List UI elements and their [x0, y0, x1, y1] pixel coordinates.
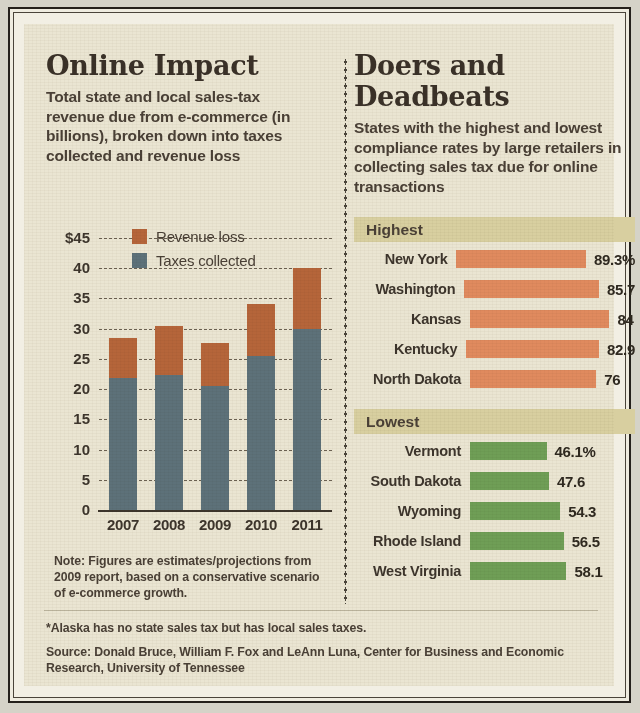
chart-bar [293, 268, 321, 510]
state-row-lowest: West Virginia58.1 [354, 558, 635, 584]
state-row-highest: Kentucky82.9 [354, 336, 635, 362]
chart-y-tick: 10 [46, 441, 90, 458]
legend-label-revenue-loss: Revenue loss [156, 228, 245, 245]
legend-label-taxes-collected: Taxes collected [156, 252, 256, 269]
legend-item-revenue-loss: Revenue loss [132, 228, 256, 245]
chart-bar-segment-revenue-loss [109, 338, 137, 378]
chart-y-tick: 35 [46, 289, 90, 306]
chart-bar-segment-revenue-loss [201, 343, 229, 387]
footer-divider [44, 610, 598, 611]
chart-legend: Revenue loss Taxes collected [132, 228, 256, 276]
state-name: South Dakota [354, 473, 470, 489]
state-row-highest: Washington85.7 [354, 276, 635, 302]
chart-x-tick: 2010 [238, 516, 284, 533]
state-name: Kansas [354, 311, 470, 327]
legend-swatch-revenue-loss [132, 229, 147, 244]
chart-bar [155, 326, 183, 510]
legend-swatch-taxes-collected [132, 253, 147, 268]
state-compliance-value: 46.1% [547, 443, 596, 460]
chart-bar-segment-taxes-collected [247, 356, 275, 510]
chart-x-tick: 2007 [100, 516, 146, 533]
state-compliance-value: 47.6 [549, 473, 585, 490]
state-compliance-value: 54.3 [560, 503, 596, 520]
section-band-highest-label: Highest [366, 221, 423, 239]
right-panel: Doers and Deadbeats States with the high… [354, 50, 635, 588]
chart-bar [109, 338, 137, 510]
state-name: North Dakota [354, 371, 470, 387]
vertical-dotted-divider [344, 58, 347, 604]
left-panel: Online Impact Total state and local sale… [46, 50, 320, 165]
newspaper-clipping: Online Impact Total state and local sale… [0, 0, 640, 713]
state-compliance-value: 56.5 [564, 533, 600, 550]
state-name: Washington [354, 281, 464, 297]
section-band-lowest-label: Lowest [366, 413, 419, 431]
state-row-highest: North Dakota76 [354, 366, 635, 392]
right-panel-subhead: States with the highest and lowest compl… [354, 118, 635, 196]
clipping-frame-outer: Online Impact Total state and local sale… [8, 7, 631, 703]
left-panel-headline: Online Impact [46, 50, 320, 81]
chart-x-axis [98, 510, 332, 512]
chart-y-tick: 25 [46, 350, 90, 367]
state-compliance-bar [470, 562, 566, 580]
highest-states-list: New York89.3%Washington85.7Kansas84Kentu… [354, 246, 635, 392]
state-name: Vermont [354, 443, 470, 459]
chart-y-tick: $45 [46, 229, 90, 246]
chart-y-tick: 30 [46, 320, 90, 337]
footnote-alaska: *Alaska has no state sales tax but has l… [46, 621, 598, 635]
chart-y-tick: 15 [46, 410, 90, 427]
state-row-lowest: Wyoming54.3 [354, 498, 635, 524]
state-compliance-value: 76 [596, 371, 620, 388]
state-row-highest: New York89.3% [354, 246, 635, 272]
chart-note: Note: Figures are estimates/projections … [54, 553, 329, 602]
chart-bar-segment-taxes-collected [155, 375, 183, 510]
chart-y-tick: 5 [46, 471, 90, 488]
state-name: West Virginia [354, 563, 470, 579]
state-row-lowest: South Dakota47.6 [354, 468, 635, 494]
state-compliance-bar [470, 370, 596, 388]
source-credit: Source: Donald Bruce, William F. Fox and… [46, 644, 598, 677]
section-band-lowest: Lowest [354, 409, 635, 434]
chart-y-tick: 20 [46, 380, 90, 397]
chart-bar-segment-revenue-loss [293, 268, 321, 328]
state-compliance-bar [470, 442, 547, 460]
state-compliance-bar [470, 532, 564, 550]
state-name: Wyoming [354, 503, 470, 519]
legend-item-taxes-collected: Taxes collected [132, 252, 256, 269]
chart-y-tick: 40 [46, 259, 90, 276]
infographic-page: Online Impact Total state and local sale… [24, 24, 614, 686]
state-compliance-bar [470, 502, 560, 520]
lowest-states-list: Vermont46.1%South Dakota47.6Wyoming54.3R… [354, 438, 635, 584]
stacked-bar-chart: $45403530252015105020072008200920102011 … [46, 224, 332, 544]
state-row-lowest: Vermont46.1% [354, 438, 635, 464]
chart-x-tick: 2011 [284, 516, 330, 533]
state-name: New York [354, 251, 456, 267]
state-compliance-value: 89.3% [586, 251, 635, 268]
left-panel-subhead: Total state and local sales-tax revenue … [46, 87, 320, 165]
chart-bar-segment-taxes-collected [201, 386, 229, 510]
chart-bar-segment-revenue-loss [247, 304, 275, 356]
state-compliance-bar [466, 340, 599, 358]
state-compliance-bar [470, 472, 549, 490]
chart-x-tick: 2009 [192, 516, 238, 533]
chart-bar-segment-taxes-collected [109, 378, 137, 510]
state-compliance-value: 82.9 [599, 341, 635, 358]
state-compliance-value: 58.1 [566, 563, 602, 580]
state-row-lowest: Rhode Island56.5 [354, 528, 635, 554]
state-compliance-bar [464, 280, 599, 298]
chart-bar [201, 343, 229, 510]
chart-bar-segment-taxes-collected [293, 329, 321, 510]
clipping-frame-inner: Online Impact Total state and local sale… [13, 12, 626, 698]
state-compliance-value: 85.7 [599, 281, 635, 298]
state-compliance-value: 84 [609, 311, 633, 328]
right-panel-headline: Doers and Deadbeats [354, 50, 635, 112]
chart-x-tick: 2008 [146, 516, 192, 533]
chart-bar-segment-revenue-loss [155, 326, 183, 375]
state-name: Kentucky [354, 341, 466, 357]
state-row-highest: Kansas84 [354, 306, 635, 332]
state-compliance-bar [456, 250, 585, 268]
chart-bar [247, 304, 275, 510]
section-band-highest: Highest [354, 217, 635, 242]
state-compliance-bar [470, 310, 609, 328]
state-name: Rhode Island [354, 533, 470, 549]
chart-y-tick: 0 [46, 501, 90, 518]
